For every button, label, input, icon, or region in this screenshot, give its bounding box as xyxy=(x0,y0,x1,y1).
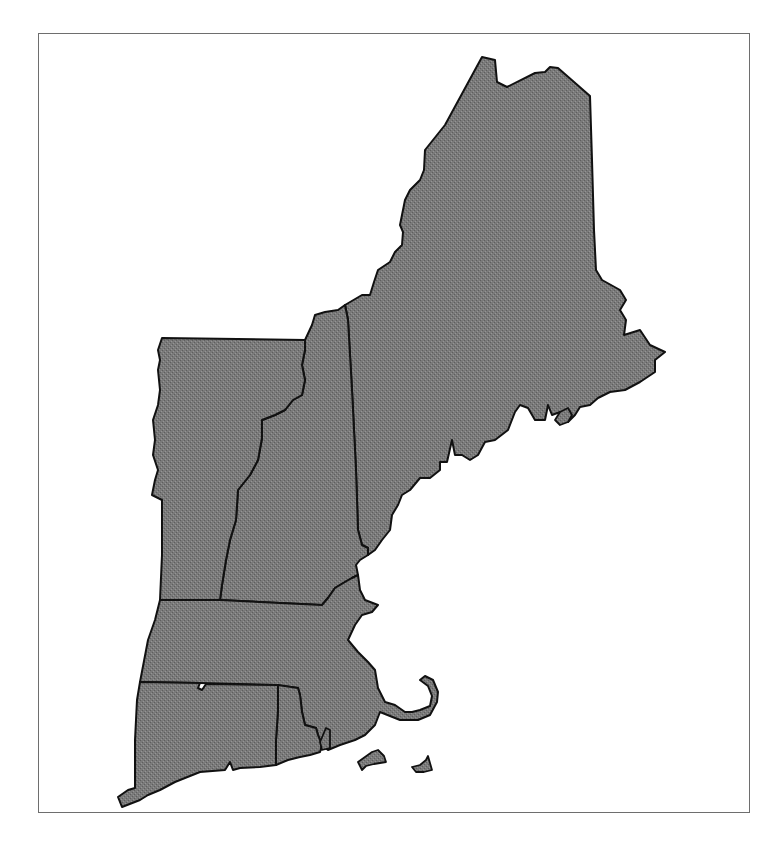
new-england-map xyxy=(0,0,766,842)
island-nantucket xyxy=(412,756,432,772)
island-marthas-vineyard xyxy=(358,750,386,770)
state-maine[interactable] xyxy=(345,57,665,555)
state-connecticut[interactable] xyxy=(118,682,278,807)
